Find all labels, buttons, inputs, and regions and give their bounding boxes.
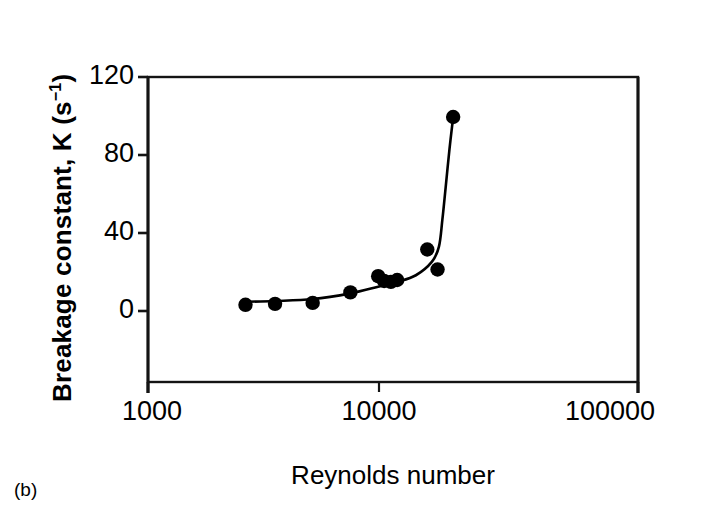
x-tick-marks (148, 382, 638, 393)
data-point (420, 242, 434, 256)
trend-curve (241, 117, 453, 302)
data-point (446, 110, 460, 124)
data-point (268, 297, 282, 311)
data-point (238, 298, 252, 312)
figure-panel: Breakage constant, K (s−1) 120 80 40 0 1… (0, 0, 722, 522)
plot-canvas (0, 0, 722, 522)
data-point (390, 273, 404, 287)
data-point (430, 262, 444, 276)
data-point-group (238, 110, 460, 312)
data-point (305, 296, 319, 310)
data-point (343, 285, 357, 299)
plot-frame (148, 77, 638, 382)
axes-frame (148, 77, 638, 393)
